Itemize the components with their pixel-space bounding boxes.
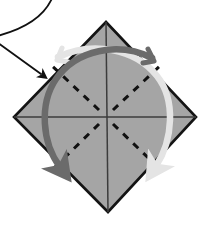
origami-figure [0,0,205,227]
figure-canvas [0,0,205,227]
